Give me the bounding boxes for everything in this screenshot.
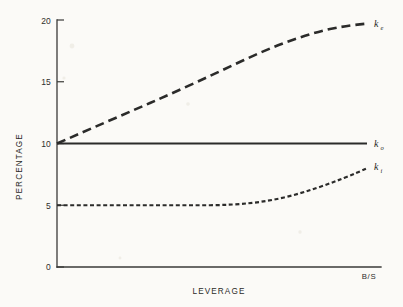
series-label-ko-text: k (374, 138, 379, 149)
leverage-cost-of-capital-chart: 20 15 10 5 0 PERCENTAGE LEVERAGE B/S k e… (0, 0, 403, 307)
series-label-ke-subscript: e (381, 24, 384, 31)
paper-speck (298, 230, 301, 233)
paper-speck (70, 44, 75, 49)
paper-speck (119, 257, 122, 260)
y-tick-label-10: 10 (41, 139, 51, 149)
y-tick-label-20: 20 (41, 16, 51, 26)
series-label-ki-text: k (374, 161, 379, 172)
y-tick-label-15: 15 (41, 77, 51, 87)
chart-figure: 20 15 10 5 0 PERCENTAGE LEVERAGE B/S k e… (0, 0, 403, 307)
x-axis-end-label: B/S (362, 272, 377, 281)
paper-background (0, 0, 403, 307)
y-tick-label-5: 5 (46, 201, 51, 211)
y-tick-label-0: 0 (46, 262, 51, 272)
paper-speck (186, 102, 190, 106)
y-axis-title: PERCENTAGE (15, 133, 24, 200)
series-label-ke-text: k (374, 18, 379, 29)
paper-speck (62, 76, 65, 79)
x-axis-title: LEVERAGE (193, 287, 246, 296)
series-label-ki-subscript: i (381, 167, 383, 174)
